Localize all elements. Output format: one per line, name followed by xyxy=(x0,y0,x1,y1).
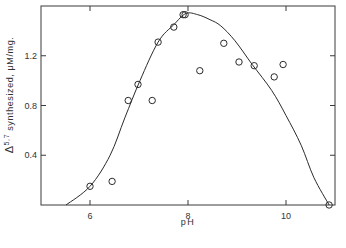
x-axis-title: pH xyxy=(181,217,196,227)
fitted-curve xyxy=(66,13,329,205)
chart: 68100.40.81.2 pH Δ5,7 synthesized, μM/mg… xyxy=(0,0,346,248)
y-axis-title: Δ5,7 synthesized, μM/mg. xyxy=(3,37,15,154)
tick-labels: 68100.40.81.2 xyxy=(24,51,291,221)
data-point xyxy=(197,68,203,74)
plot-frame xyxy=(41,6,335,205)
data-point xyxy=(221,40,227,46)
y-tick-label: 1.2 xyxy=(24,51,37,61)
data-point xyxy=(236,59,242,65)
y-axis-title-superscript: 5,7 xyxy=(3,134,10,146)
data-point xyxy=(280,61,286,67)
data-point xyxy=(149,97,155,103)
data-point xyxy=(125,97,131,103)
data-point xyxy=(109,178,115,184)
y-tick-label: 0.4 xyxy=(24,150,37,160)
x-tick-label: 10 xyxy=(281,211,291,221)
data-points xyxy=(87,12,332,209)
data-point xyxy=(271,74,277,80)
axis-ticks xyxy=(41,6,335,205)
x-tick-label: 6 xyxy=(87,211,92,221)
y-axis-title-text: synthesized, μM/mg. xyxy=(5,37,15,134)
plot-area-border xyxy=(41,6,335,205)
y-axis-title-delta: Δ xyxy=(3,145,15,153)
y-tick-label: 0.8 xyxy=(24,101,37,111)
